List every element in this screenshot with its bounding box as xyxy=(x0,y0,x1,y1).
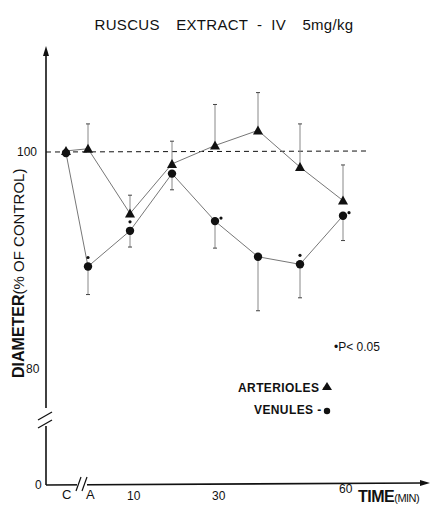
x-tick-60: 60 xyxy=(339,482,352,496)
x-axis xyxy=(46,483,422,485)
circle-marker-icon xyxy=(126,227,134,235)
legend-arterioles-label: ARTERIOLES - xyxy=(238,381,327,395)
x-tick-30: 30 xyxy=(212,489,225,503)
x-axis-label-main: TIME xyxy=(358,488,394,505)
triangle-marker-icon xyxy=(338,196,348,205)
significance-dot-icon xyxy=(219,217,222,220)
y-tick-80: 80 xyxy=(26,362,39,376)
circle-marker-icon xyxy=(211,217,219,225)
legend-venules-label: VENULES - xyxy=(254,403,322,417)
x-axis-arrow-icon xyxy=(420,480,430,486)
x-axis-label-sub: (MIN) xyxy=(394,492,419,504)
triangle-marker-icon xyxy=(83,144,93,153)
y-axis-arrow-icon xyxy=(43,46,49,56)
significance-dot-icon xyxy=(298,254,301,257)
y-axis-label-main: DIAMETER xyxy=(10,294,27,378)
x-axis-label: TIME(MIN) xyxy=(358,488,419,506)
circle-marker-icon xyxy=(84,262,92,270)
y-axis-label-sub: (% OF CONTROL) xyxy=(10,169,27,295)
reference-line-100 xyxy=(46,151,370,152)
significance-note: •P< 0.05 xyxy=(334,340,380,354)
y-tick-0: 0 xyxy=(35,478,42,492)
significance-dot-icon xyxy=(86,256,89,259)
y-tick-100: 100 xyxy=(17,145,37,159)
legend-circle-icon xyxy=(324,408,330,414)
y-axis-label: DIAMETER(% OF CONTROL) xyxy=(10,169,28,378)
circle-marker-icon xyxy=(296,260,304,268)
significance-dot-icon xyxy=(128,220,131,223)
x-tick-a: A xyxy=(86,487,95,502)
triangle-marker-icon xyxy=(167,159,177,168)
triangle-marker-icon xyxy=(253,125,263,134)
x-tick-10: 10 xyxy=(127,489,140,503)
triangle-marker-icon xyxy=(210,141,220,150)
significance-dot-icon xyxy=(347,211,350,214)
circle-marker-icon xyxy=(62,149,70,157)
circle-marker-icon xyxy=(168,169,176,177)
x-tick-c: C xyxy=(62,487,71,502)
circle-marker-icon xyxy=(339,212,347,220)
plot-area xyxy=(0,0,448,532)
circle-marker-icon xyxy=(254,253,262,261)
arterioles-line xyxy=(66,130,343,213)
